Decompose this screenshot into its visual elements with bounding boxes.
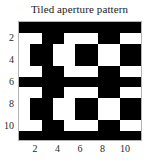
y-tick-label: 4 <box>9 54 14 65</box>
x-tick-label: 8 <box>100 143 105 154</box>
x-tick-label: 10 <box>120 143 130 154</box>
x-tick-label: 2 <box>32 143 37 154</box>
tiled-aperture-heatmap <box>19 22 142 141</box>
x-tick-label: 6 <box>78 143 83 154</box>
y-tick-label: 10 <box>4 119 14 130</box>
y-tick-label: 8 <box>9 97 14 108</box>
plot-area <box>18 21 142 141</box>
y-tick-label: 6 <box>9 76 14 87</box>
figure-container: Tiled aperture pattern 246810 246810 <box>0 0 159 166</box>
y-tick-label: 2 <box>9 32 14 43</box>
chart-title: Tiled aperture pattern <box>0 3 159 15</box>
x-tick-label: 4 <box>55 143 60 154</box>
